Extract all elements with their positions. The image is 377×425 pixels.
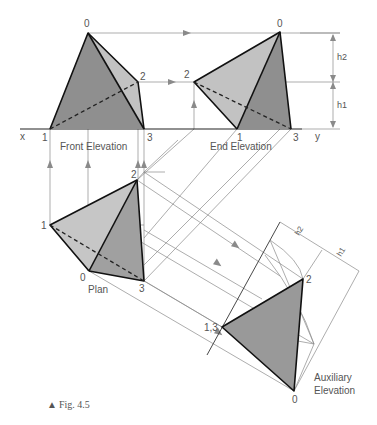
aux-dim-h1: h1 xyxy=(335,245,348,258)
front-elevation: 0 1 2 3 Front Elevation xyxy=(42,18,153,152)
plan-v3-label: 3 xyxy=(139,283,145,294)
plan-v2-label: 2 xyxy=(131,169,137,180)
figure-caption: Fig. 4.5 xyxy=(59,399,90,410)
end-elevation: 0 1 2 3 End Elevation h2 h1 xyxy=(184,18,347,152)
end-v3-label: 3 xyxy=(293,132,299,143)
aux-v13-label: 1,3 xyxy=(204,322,218,333)
plan-view: 2 1 0 3 Plan xyxy=(41,169,145,295)
aux-title-line1: Auxiliary xyxy=(314,372,352,383)
aux-v0-label: 0 xyxy=(292,394,298,405)
end-v0-label: 0 xyxy=(277,18,283,29)
front-v3-label: 3 xyxy=(147,132,153,143)
caption-marker-icon: ▲ xyxy=(47,399,57,410)
plan-v1-label: 1 xyxy=(41,220,47,231)
auxiliary-elevation: 1,3 2 0 Auxiliary Elevation h2 h1 xyxy=(204,224,355,405)
end-dim-h1: h1 xyxy=(337,100,347,110)
front-v2-label: 2 xyxy=(140,71,146,82)
plan-v0-label: 0 xyxy=(80,272,86,283)
aux-dim-h2: h2 xyxy=(293,224,306,237)
aux-title-line2: Elevation xyxy=(314,385,355,396)
front-v1-label: 1 xyxy=(42,132,48,143)
front-elevation-title: Front Elevation xyxy=(60,141,127,152)
projection-drawing: x y 0 1 2 3 Front Elevation 0 1 2 3 End … xyxy=(0,0,377,425)
end-elevation-title: End Elevation xyxy=(210,141,272,152)
front-v0-label: 0 xyxy=(84,18,90,29)
plan-title: Plan xyxy=(88,284,108,295)
axis-y-label: y xyxy=(315,131,320,142)
axis-x-label: x xyxy=(20,131,25,142)
end-v2-label: 2 xyxy=(184,69,190,80)
end-dim-h2: h2 xyxy=(337,52,347,62)
aux-v2-label: 2 xyxy=(306,274,312,285)
